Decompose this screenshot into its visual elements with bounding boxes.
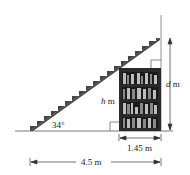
d-label: d m: [166, 79, 180, 89]
h-label: h m: [101, 96, 115, 106]
staircase-bookshelf-diagram: 34° h m d m 1.45 m 4.5 m: [0, 0, 190, 175]
right-angle-marker-top: [151, 60, 161, 68]
shelf-width-label: 1.45 m: [127, 143, 152, 153]
right-angle-marker-ground: [110, 122, 119, 131]
total-width-label: 4.5 m: [81, 157, 102, 167]
shelf-width-arrow: [119, 134, 161, 141]
angle-label: 34°: [52, 120, 65, 130]
bookshelf: [119, 68, 161, 131]
